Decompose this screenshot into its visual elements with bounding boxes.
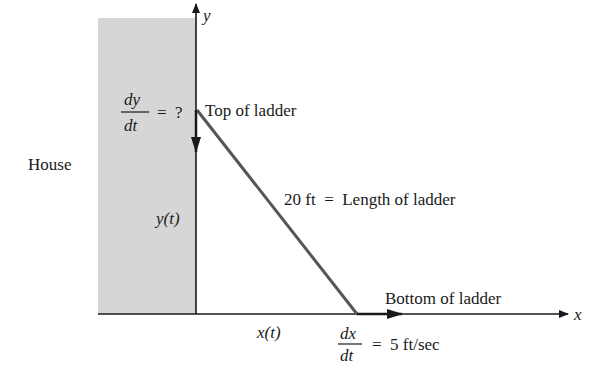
dy-dt-value: = ? <box>157 103 183 122</box>
dx-dt-value: = 5 ft/sec <box>372 335 440 354</box>
house-label: House <box>28 155 71 174</box>
top-of-ladder-label: Top of ladder <box>205 101 297 120</box>
y-of-t-label: y(t) <box>154 209 180 228</box>
dy-dt-numerator: dy <box>124 90 141 109</box>
ladder <box>197 110 357 314</box>
bottom-of-ladder-label: Bottom of ladder <box>385 289 501 308</box>
house-wall <box>98 18 196 314</box>
dx-dt-numerator: dx <box>340 324 357 343</box>
x-of-t-label: x(t) <box>256 323 281 342</box>
y-axis-label: y <box>201 6 211 25</box>
dy-dt-denominator: dt <box>124 116 139 135</box>
dx-dt-denominator: dt <box>340 346 355 365</box>
ladder-length-label: 20 ft = Length of ladder <box>284 190 456 209</box>
x-axis-label: x <box>573 305 582 324</box>
ladder-diagram: y x House dy dt = ? Top of ladder 20 ft … <box>0 0 616 381</box>
